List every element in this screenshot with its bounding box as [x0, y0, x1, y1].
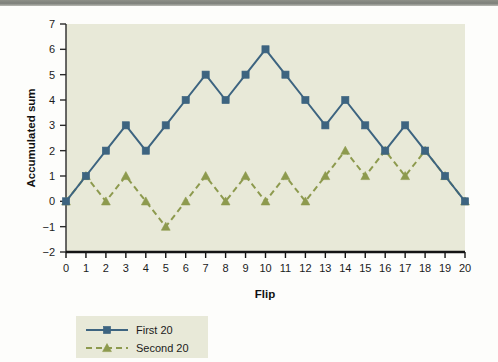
x-tick-label: 10: [259, 262, 271, 274]
y-axis-ticks: 76543210−1−2: [42, 18, 66, 258]
data-point-marker: [122, 122, 129, 129]
data-point-marker: [222, 96, 229, 103]
y-tick-label: 1: [49, 170, 55, 182]
y-tick-label: 3: [49, 119, 55, 131]
data-point-marker: [62, 198, 69, 205]
x-tick-label: 1: [83, 262, 89, 274]
y-axis-title: Accumulated sum: [25, 88, 37, 187]
data-point-marker: [82, 172, 89, 179]
x-tick-label: 15: [359, 262, 371, 274]
data-point-marker: [382, 147, 389, 154]
data-point-marker: [362, 122, 369, 129]
legend-label: Second 20: [136, 342, 189, 354]
y-tick-label: 0: [49, 195, 55, 207]
y-tick-label: 7: [49, 18, 55, 30]
data-point-marker: [162, 122, 169, 129]
data-point-marker: [202, 71, 209, 78]
x-tick-label: 14: [339, 262, 351, 274]
x-tick-label: 8: [223, 262, 229, 274]
plot-area-background: [66, 24, 465, 252]
x-tick-label: 2: [103, 262, 109, 274]
data-point-marker: [102, 147, 109, 154]
x-tick-label: 3: [123, 262, 129, 274]
x-tick-label: 11: [280, 262, 291, 274]
y-tick-label: 4: [49, 94, 55, 106]
data-point-marker: [461, 198, 468, 205]
x-axis-ticks: 01234567891011121314151617181920: [63, 252, 471, 274]
data-point-marker: [402, 122, 409, 129]
x-tick-label: 18: [419, 262, 431, 274]
data-point-marker: [282, 71, 289, 78]
y-tick-label: −1: [42, 221, 55, 233]
data-point-marker: [322, 122, 329, 129]
x-tick-label: 20: [459, 262, 471, 274]
x-axis-title: Flip: [255, 288, 275, 300]
chart-legend: First 20Second 20: [76, 316, 208, 358]
y-tick-label: 5: [49, 69, 55, 81]
x-tick-label: 7: [203, 262, 209, 274]
accumulated-sum-line-chart: 76543210−1−2 012345678910111213141516171…: [0, 6, 498, 362]
x-tick-label: 4: [143, 262, 149, 274]
x-tick-label: 5: [163, 262, 169, 274]
x-tick-label: 19: [439, 262, 451, 274]
chart-figure: 76543210−1−2 012345678910111213141516171…: [0, 6, 498, 362]
x-tick-label: 17: [399, 262, 411, 274]
x-tick-label: 16: [379, 262, 391, 274]
y-tick-label: −2: [42, 246, 55, 258]
data-point-marker: [441, 172, 448, 179]
x-tick-label: 0: [63, 262, 69, 274]
x-tick-label: 12: [299, 262, 311, 274]
data-point-marker: [302, 96, 309, 103]
data-point-marker: [182, 96, 189, 103]
legend-marker-swatch: [103, 326, 110, 333]
data-point-marker: [422, 147, 429, 154]
data-point-marker: [342, 96, 349, 103]
x-tick-label: 6: [183, 262, 189, 274]
y-tick-label: 2: [49, 145, 55, 157]
legend-label: First 20: [136, 324, 173, 336]
data-point-marker: [242, 71, 249, 78]
x-tick-label: 13: [319, 262, 331, 274]
data-point-marker: [262, 46, 269, 53]
y-tick-label: 6: [49, 43, 55, 55]
x-tick-label: 9: [242, 262, 248, 274]
data-point-marker: [142, 147, 149, 154]
